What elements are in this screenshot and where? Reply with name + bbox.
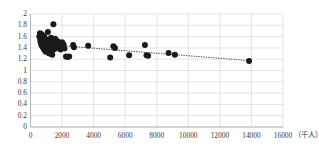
y-tick-label: 0.2 bbox=[18, 112, 27, 119]
y-tick-label: 0.4 bbox=[18, 100, 27, 107]
y-tick-label: 1.2 bbox=[18, 55, 27, 62]
y-tick-label: 1 bbox=[23, 67, 27, 74]
y-tick-label: 0.8 bbox=[18, 78, 27, 85]
data-point bbox=[142, 42, 148, 48]
data-point bbox=[126, 52, 132, 58]
data-point bbox=[71, 44, 77, 50]
scatter-chart: 00.20.40.60.811.21.41.61.82 020004000600… bbox=[0, 0, 319, 147]
data-point bbox=[145, 53, 151, 59]
y-tick-label: 0.6 bbox=[18, 89, 27, 96]
data-point bbox=[107, 55, 113, 61]
y-tick-label: 1.8 bbox=[18, 21, 27, 28]
y-tick-label: 1.6 bbox=[18, 33, 27, 40]
y-tick-label: 1.4 bbox=[18, 44, 27, 51]
data-point bbox=[246, 58, 252, 64]
y-tick-label: 0 bbox=[23, 123, 27, 130]
data-point bbox=[172, 52, 178, 58]
data-point bbox=[66, 53, 72, 59]
gridlines bbox=[31, 14, 284, 127]
chart-canvas bbox=[0, 0, 319, 147]
data-point bbox=[85, 43, 91, 49]
x-axis-unit-label: （千人） bbox=[294, 131, 319, 138]
data-point bbox=[61, 45, 67, 51]
data-point bbox=[166, 50, 172, 56]
data-point bbox=[112, 45, 118, 51]
data-point bbox=[50, 21, 56, 27]
y-tick-label: 2 bbox=[23, 10, 27, 17]
data-point bbox=[45, 29, 51, 35]
